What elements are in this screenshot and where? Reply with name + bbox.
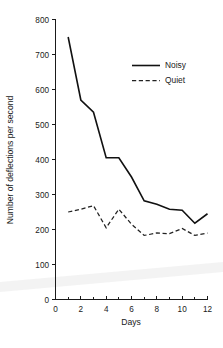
y-tick-label: 400 — [35, 156, 49, 165]
x-tick-label: 6 — [129, 305, 134, 314]
y-tick-label: 700 — [35, 51, 49, 60]
y-tick-label: 600 — [35, 86, 49, 95]
x-axis-title: Days — [121, 317, 141, 327]
y-axis-title: Number of deflections per second — [5, 96, 15, 225]
x-tick-label: 12 — [203, 305, 213, 314]
legend-label-quiet: Quiet — [165, 75, 186, 85]
x-tick-label: 2 — [79, 305, 84, 314]
line-chart: 0100200300400500600700800 Number of defl… — [0, 0, 223, 348]
y-tick-label: 500 — [35, 121, 49, 130]
x-tick-label: 10 — [178, 305, 188, 314]
y-tick-label: 100 — [35, 261, 49, 270]
chart-figure: 0100200300400500600700800 Number of defl… — [0, 0, 223, 348]
y-axis-tick-labels: 0100200300400500600700800 — [35, 16, 49, 305]
y-tick-label: 300 — [35, 191, 49, 200]
x-tick-label: 8 — [155, 305, 160, 314]
legend-label-noisy: Noisy — [165, 60, 187, 70]
chart-background — [0, 0, 223, 348]
x-tick-label: 0 — [53, 305, 58, 314]
y-tick-label: 800 — [35, 16, 49, 25]
x-tick-label: 4 — [104, 305, 109, 314]
y-tick-label: 200 — [35, 226, 49, 235]
y-tick-label: 0 — [44, 296, 49, 305]
